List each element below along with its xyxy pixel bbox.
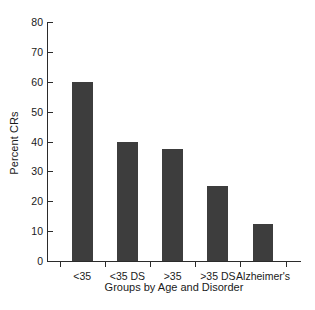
x-axis-tick — [240, 262, 241, 267]
y-axis-tick-label: 40 — [9, 136, 43, 148]
x-axis-tick — [150, 262, 151, 267]
x-axis-tick — [60, 262, 61, 267]
y-axis-tick: 30 — [48, 171, 53, 172]
bar — [117, 142, 138, 262]
y-axis-tick: 40 — [48, 142, 53, 143]
y-axis-tick-label: 50 — [9, 106, 43, 118]
y-axis-tick: 50 — [48, 112, 53, 113]
x-axis-tick — [286, 262, 287, 267]
x-axis-tick — [105, 262, 106, 267]
y-axis-tick: 60 — [48, 82, 53, 83]
bar-chart-figure: Percent CRs 01020304050607080 <35<35 DS>… — [0, 0, 315, 310]
bar — [253, 224, 274, 261]
y-axis-tick-label: 60 — [9, 76, 43, 88]
bar — [162, 149, 183, 261]
y-axis-tick-label: 30 — [9, 165, 43, 177]
y-axis-tick: 0 — [48, 261, 53, 262]
y-axis-tick: 10 — [48, 231, 53, 232]
y-axis-tick-label: 70 — [9, 46, 43, 58]
x-axis-tick — [195, 262, 196, 267]
bar — [72, 82, 93, 261]
y-axis-tick-label: 0 — [9, 255, 43, 267]
x-axis-line — [47, 261, 301, 262]
plot-area: 01020304050607080 <35<35 DS>35>35 DSAlzh… — [47, 22, 301, 262]
y-axis-tick-label: 20 — [9, 195, 43, 207]
y-axis-tick-label: 80 — [9, 16, 43, 28]
x-axis-title: Groups by Age and Disorder — [47, 281, 301, 293]
y-axis-tick-label: 10 — [9, 225, 43, 237]
bar — [207, 186, 228, 261]
y-axis-tick: 80 — [48, 22, 53, 23]
y-axis-tick: 70 — [48, 52, 53, 53]
y-axis-tick: 20 — [48, 201, 53, 202]
